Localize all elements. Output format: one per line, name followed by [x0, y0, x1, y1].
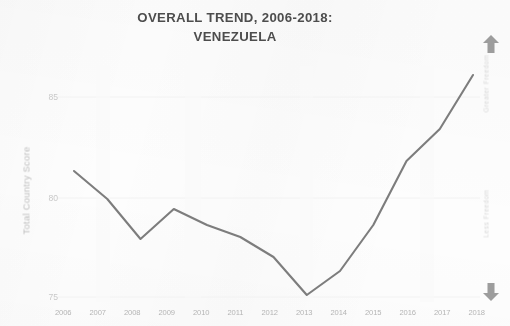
greater-freedom-label: Greater Freedom [483, 36, 490, 132]
x-axis-tick-label: 2011 [228, 308, 244, 317]
x-axis-tick-label: 2017 [434, 308, 451, 317]
x-axis-tick-label: 2013 [296, 308, 313, 317]
less-freedom-label: Less Freedom [483, 166, 490, 262]
x-axis-tick-label: 2010 [193, 308, 210, 317]
x-axis-tick-label: 2016 [399, 308, 416, 317]
freedom-scale: Greater Freedom Less Freedom [474, 34, 508, 302]
x-axis-tick-label: 2008 [124, 308, 141, 317]
x-axis-tick-label: 2009 [159, 308, 176, 317]
trend-line [74, 75, 473, 295]
arrow-down-icon [482, 282, 500, 302]
x-axis-tick-label: 2015 [365, 308, 382, 317]
x-axis-tick-label: 2014 [330, 308, 347, 317]
chart-page: OVERALL TREND, 2006-2018: VENEZUELA Tota… [0, 0, 510, 326]
x-axis-tick-label: 2007 [90, 308, 107, 317]
x-axis-tick-label: 2012 [261, 308, 278, 317]
x-axis-tick-labels: 2006 2007 2008 2009 2010 2011 2012 2013 … [55, 308, 485, 317]
x-axis-tick-label: 2006 [55, 308, 72, 317]
plot-area [0, 0, 510, 326]
x-axis-tick-label: 2018 [468, 308, 485, 317]
gridlines [58, 97, 480, 297]
scan-bands [96, 66, 434, 302]
